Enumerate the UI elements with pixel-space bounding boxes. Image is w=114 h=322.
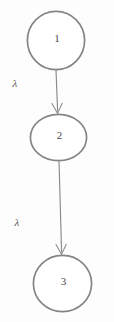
edge-shaft-node1-node2 bbox=[56, 70, 58, 111]
edge-shaft-node2-node3 bbox=[59, 161, 62, 252]
node-label-3: 3 bbox=[61, 276, 67, 287]
node-label-2: 2 bbox=[57, 130, 63, 141]
graph-svg bbox=[0, 0, 114, 322]
edge-label-lambda-2: λ bbox=[15, 217, 20, 228]
node-label-1: 1 bbox=[54, 33, 60, 44]
edge-label-lambda-1: λ bbox=[13, 78, 18, 89]
diagram-canvas: 1 2 3 λ λ bbox=[0, 0, 114, 322]
